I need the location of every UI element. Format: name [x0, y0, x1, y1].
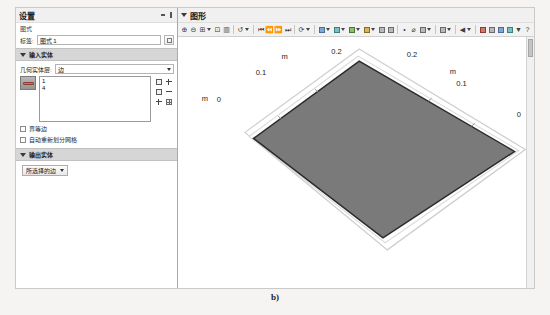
output-dropdown-row: 所选择的边 — [16, 161, 177, 176]
input-entities-section-header[interactable]: 输入实体 — [16, 48, 177, 61]
view-settings-icon[interactable] — [332, 24, 341, 35]
refresh-icon-glyph: ⟳ — [299, 26, 305, 33]
view-settings-icon-glyph — [334, 27, 340, 33]
sketch-icon[interactable] — [478, 24, 487, 35]
output-entity-dropdown-label: 所选择的边 — [26, 166, 56, 175]
graphics-panel-title: 图形 — [190, 10, 206, 21]
select-points-icon[interactable]: • — [400, 24, 409, 35]
print-icon[interactable] — [438, 24, 447, 35]
chevron-down-icon[interactable] — [341, 28, 345, 31]
arrow-left-icon-glyph: ◀ — [460, 26, 465, 33]
selection-list-icon[interactable] — [164, 97, 173, 106]
clear-selection-icon[interactable] — [154, 97, 163, 106]
figure-container: 设置 图式 标签: 输入实体 几何实体层: 边 — [0, 0, 550, 315]
print-icon-glyph — [440, 27, 446, 33]
geometry-level-combo[interactable]: 边 — [55, 64, 174, 74]
export-plot-icon[interactable] — [505, 24, 514, 35]
figure-caption: b) — [0, 292, 550, 302]
chevron-down-icon[interactable] — [427, 28, 431, 31]
rename-button[interactable] — [164, 35, 174, 45]
zoom-in-icon[interactable]: ⊕ — [180, 24, 189, 35]
axis-tick-0-left: 0 — [217, 96, 221, 105]
checkbox-row-keep-edges[interactable]: 界等边 — [16, 122, 177, 133]
go-next-icon-glyph: ⏩ — [274, 26, 283, 33]
chevron-down-icon[interactable] — [245, 28, 249, 31]
toolbar-separator — [314, 25, 315, 34]
measure-icon[interactable]: ⌀ — [409, 24, 418, 35]
go-next-icon[interactable]: ⏩ — [274, 24, 283, 35]
zoom-box-icon[interactable]: ⊡ — [213, 24, 222, 35]
chevron-down-icon[interactable] — [306, 28, 310, 31]
collapse-icon[interactable] — [160, 12, 166, 18]
checkbox-row-auto-remesh[interactable]: 自动重新划分网格 — [16, 133, 177, 144]
axis-icon[interactable] — [377, 24, 386, 35]
list-item[interactable]: 4 — [42, 85, 148, 92]
chevron-down-icon[interactable] — [356, 28, 360, 31]
go-prev-icon-glyph: ⏪ — [265, 26, 274, 33]
vertical-scrollbar[interactable] — [526, 37, 534, 288]
refresh-icon[interactable]: ⟳ — [297, 24, 306, 35]
plot-canvas[interactable]: m 0 0.1 m 0.2 0.2 m 0.1 0 — [178, 37, 534, 288]
image-snapshot-icon[interactable] — [487, 24, 496, 35]
zoom-extents-icon[interactable]: ⊞ — [198, 24, 207, 35]
export-plot-icon-glyph — [507, 27, 513, 33]
select-points-icon-glyph: • — [403, 26, 405, 33]
collapse-icon[interactable] — [181, 13, 187, 17]
remove-from-selection-icon[interactable] — [164, 87, 173, 96]
help-icon[interactable]: ? — [523, 24, 532, 35]
selection-listbox[interactable]: 1 4 — [39, 76, 151, 122]
active-selection-toggle[interactable] — [20, 76, 36, 90]
paste-selection-icon[interactable] — [154, 87, 163, 96]
chevron-down-icon[interactable] — [371, 28, 375, 31]
checkbox-keep-edges[interactable] — [20, 126, 26, 132]
zoom-out-icon[interactable]: ⊖ — [189, 24, 198, 35]
chevron-down-icon[interactable] — [207, 28, 211, 31]
go-first-icon[interactable]: ⏮ — [256, 24, 265, 35]
arrow-left-icon[interactable]: ◀ — [458, 24, 467, 35]
list-item[interactable]: 1 — [42, 78, 148, 85]
checkbox-auto-remesh[interactable] — [20, 137, 26, 143]
chevron-down-icon[interactable] — [467, 28, 471, 31]
rotate-icon[interactable]: ↺ — [236, 24, 245, 35]
label-field-label: 标签: — [20, 36, 34, 45]
input-entities-section-label: 输入实体 — [29, 50, 53, 59]
settings-panel: 设置 图式 标签: 输入实体 几何实体层: 边 — [16, 8, 178, 288]
graphics-panel: 图形 ⊕⊖⊞⊡▥↺⏮⏪⏩⏭⟳•⌀◀▼? — [178, 8, 534, 288]
axis-tick-0p1-left: 0.1 — [256, 68, 266, 77]
go-prev-icon[interactable]: ⏪ — [265, 24, 274, 35]
copy-plot-icon[interactable] — [496, 24, 505, 35]
checkbox-keep-edges-label: 界等边 — [29, 124, 47, 133]
label-input[interactable] — [37, 35, 161, 45]
orthographic-icon-glyph — [388, 27, 394, 33]
axis-icon-glyph — [379, 27, 385, 33]
checkbox-auto-remesh-label: 自动重新划分网格 — [29, 135, 77, 144]
selection-tool-buttons — [154, 76, 174, 106]
output-entity-dropdown[interactable]: 所选择的边 — [22, 165, 68, 176]
rotate-icon-glyph: ↺ — [238, 26, 244, 33]
selection-area: 1 4 — [16, 76, 177, 122]
camera-icon-glyph — [349, 27, 355, 33]
settings-panel-filler — [16, 176, 177, 288]
transparency-icon[interactable]: ▥ — [222, 24, 231, 35]
add-to-selection-icon[interactable] — [154, 77, 163, 86]
grid-icon[interactable] — [362, 24, 371, 35]
axis-tick-0p2-left: 0.2 — [331, 47, 341, 56]
output-entities-section-header[interactable]: 输出实体 — [16, 148, 177, 161]
annotation-icon[interactable]: ▼ — [514, 24, 523, 35]
zoom-extents-icon-glyph: ⊞ — [200, 26, 206, 33]
zoom-selected-icon[interactable] — [164, 77, 173, 86]
scrollbar-thumb[interactable] — [528, 39, 533, 57]
orthographic-icon[interactable] — [386, 24, 395, 35]
graphics-toolbar: ⊕⊖⊞⊡▥↺⏮⏪⏩⏭⟳•⌀◀▼? — [178, 23, 534, 37]
chevron-down-icon[interactable] — [447, 28, 451, 31]
camera-icon[interactable] — [347, 24, 356, 35]
scene-light-icon[interactable] — [317, 24, 326, 35]
scene-light-icon-glyph — [319, 27, 325, 33]
menu-icon[interactable] — [168, 12, 174, 18]
go-last-icon-glyph: ⏭ — [285, 26, 291, 33]
axis-tick-0p1-right: 0.1 — [456, 79, 466, 88]
label-field-row: 标签: — [16, 35, 177, 48]
chevron-down-icon[interactable] — [326, 28, 330, 31]
clip-plane-icon[interactable] — [418, 24, 427, 35]
go-last-icon[interactable]: ⏭ — [283, 24, 292, 35]
